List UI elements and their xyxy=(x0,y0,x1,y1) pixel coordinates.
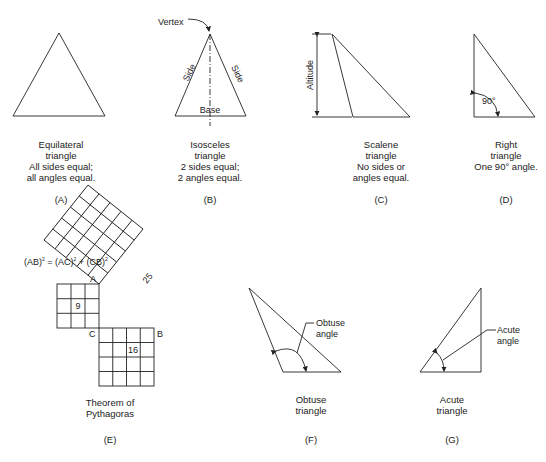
base-label: Base xyxy=(200,105,221,115)
equilateral-triangle xyxy=(13,33,105,116)
vertex-pointer-arrow xyxy=(188,19,209,31)
vertex-label: Vertex xyxy=(158,17,184,27)
tag-d: (D) xyxy=(499,194,512,205)
tag-g: (G) xyxy=(445,434,459,445)
point-c-label: C xyxy=(89,329,96,339)
scalene-triangle xyxy=(332,34,410,117)
tag-f: (F) xyxy=(305,434,317,445)
side-right-label: Side xyxy=(229,63,246,84)
caption-g: Acutetriangle xyxy=(436,394,467,416)
pythagoras-equation: (AB)2 = (AC)2 + (CB)2 xyxy=(24,256,108,267)
square-9-label: 9 xyxy=(75,301,80,311)
point-a-label: A xyxy=(90,274,96,284)
square-25-label: 25 xyxy=(141,271,155,285)
tag-b: (B) xyxy=(204,194,217,205)
obtuse-angle-arc xyxy=(276,349,306,371)
caption-a: EquilateraltriangleAll sides equal;all a… xyxy=(27,139,96,183)
triangle-types-diagram: Vertex Side Side Base Altitude 90° (AB)2… xyxy=(0,0,546,462)
caption-e: Theorem ofPythagoras xyxy=(86,397,135,419)
obtuse-leader-line xyxy=(297,323,314,353)
side-left-label: Side xyxy=(181,62,198,83)
caption-c: ScalenetriangleNo sides orangles equal. xyxy=(353,139,410,183)
acute-angle-label: Acute xyxy=(497,325,520,335)
square-16-label: 16 xyxy=(128,345,138,355)
acute-angle-arc xyxy=(437,353,444,371)
tag-a: (A) xyxy=(55,194,68,205)
obtuse-angle-label: Obtuse xyxy=(316,318,345,328)
right-angle-label: 90° xyxy=(482,96,496,106)
acute-leader-line xyxy=(443,330,496,360)
caption-b: Isoscelestriangle2 sides equal;2 angles … xyxy=(178,139,242,183)
obtuse-angle-label-2: angle xyxy=(316,329,338,339)
tag-e: (E) xyxy=(104,434,117,445)
tag-c: (C) xyxy=(374,194,387,205)
caption-f: Obtusetriangle xyxy=(295,394,326,416)
altitude-label: Altitude xyxy=(305,60,315,90)
acute-triangle xyxy=(420,288,481,372)
caption-d: RighttriangleOne 90° angle. xyxy=(474,139,538,172)
acute-angle-label-2: angle xyxy=(497,336,519,346)
square-16 xyxy=(99,328,154,386)
point-b-label: B xyxy=(157,329,163,339)
